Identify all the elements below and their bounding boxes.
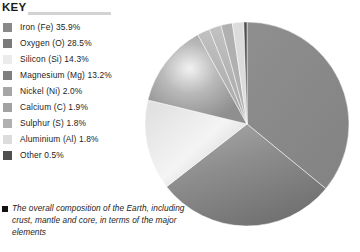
legend-item-label: Nickel (Ni) 2.0%	[20, 83, 82, 99]
legend-item-label: Oxygen (O) 28.5%	[20, 35, 92, 51]
legend-item: Calcium (C) 1.9%	[0, 99, 150, 115]
legend-swatch-icon	[3, 151, 12, 160]
legend-swatch-icon	[3, 119, 12, 128]
key-panel: KEY Iron (Fe) 35.9%Oxygen (O) 28.5%Silic…	[0, 0, 150, 160]
legend-item-label: Silicon (Si) 14.3%	[20, 51, 89, 67]
legend-item: Magnesium (Mg) 13.2%	[0, 67, 150, 83]
legend-item: Other 0.5%	[0, 147, 150, 163]
legend-item-label: Aluminium (Al) 1.8%	[20, 131, 99, 147]
figure-caption: The overall composition of the Earth, in…	[2, 202, 207, 239]
legend-item: Sulphur (S) 1.8%	[0, 115, 150, 131]
legend-swatch-icon	[3, 103, 12, 112]
pie-slice	[232, 22, 247, 124]
legend-item: Silicon (Si) 14.3%	[0, 51, 150, 67]
pie-slice	[221, 23, 247, 124]
pie-slice	[244, 22, 247, 124]
pie-slice	[148, 35, 247, 124]
caption-text: The overall composition of the Earth, in…	[2, 202, 207, 239]
pie-slice	[198, 29, 247, 124]
legend-swatch-icon	[3, 71, 12, 80]
legend-item-label: Other 0.5%	[20, 147, 64, 163]
legend-swatch-icon	[3, 135, 12, 144]
legend-item: Oxygen (O) 28.5%	[0, 35, 150, 51]
legend-list: Iron (Fe) 35.9%Oxygen (O) 28.5%Silicon (…	[0, 19, 150, 163]
key-divider	[28, 12, 111, 15]
legend-item-label: Calcium (C) 1.9%	[20, 99, 88, 115]
key-title: KEY	[2, 1, 26, 14]
legend-item: Iron (Fe) 35.9%	[0, 19, 150, 35]
legend-swatch-icon	[3, 23, 12, 32]
legend-swatch-icon	[3, 87, 12, 96]
pie-slice	[247, 22, 349, 189]
pie-slices	[145, 22, 349, 226]
pie-slice	[145, 100, 247, 187]
legend-item-label: Iron (Fe) 35.9%	[20, 19, 80, 35]
legend-swatch-icon	[3, 39, 12, 48]
legend-item: Nickel (Ni) 2.0%	[0, 83, 150, 99]
legend-item-label: Sulphur (S) 1.8%	[20, 115, 86, 131]
legend-swatch-icon	[3, 55, 12, 64]
caption-bullet-icon	[2, 206, 8, 212]
legend-item: Aluminium (Al) 1.8%	[0, 131, 150, 147]
legend-item-label: Magnesium (Mg) 13.2%	[20, 67, 112, 83]
earth-composition-figure: KEY Iron (Fe) 35.9%Oxygen (O) 28.5%Silic…	[0, 0, 360, 252]
pie-slice	[209, 25, 247, 124]
